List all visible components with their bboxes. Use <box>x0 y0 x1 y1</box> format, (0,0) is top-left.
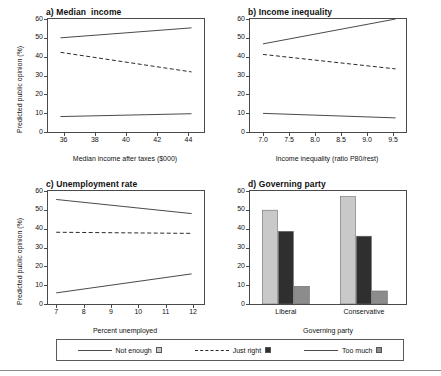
panel-d-title: d) Governing party <box>248 179 326 189</box>
panel-b-xlabel: Income inequality (ratio P80/rest) <box>227 155 427 162</box>
y-tick-label: 30 <box>23 243 43 250</box>
x-tick-label: 42 <box>143 136 171 143</box>
y-tick-label: 60 <box>225 15 245 22</box>
panel-c-xlabel: Percent unemployed <box>55 327 195 334</box>
y-tick-mark <box>246 248 249 249</box>
bar-liberal-not-enough <box>262 210 277 304</box>
x-tick-label: 9 <box>97 308 125 315</box>
x-tick-mark <box>166 305 167 308</box>
x-tick-mark <box>84 305 85 308</box>
x-tick-label: 8.0 <box>301 136 329 143</box>
y-tick-label: 0 <box>225 128 245 135</box>
y-tick-mark <box>246 285 249 286</box>
y-tick-mark <box>246 229 249 230</box>
x-tick-label: 9.5 <box>379 136 407 143</box>
y-tick-mark <box>246 210 249 211</box>
x-tick-label: 7.0 <box>249 136 277 143</box>
x-tick-mark <box>367 133 368 136</box>
legend-line-sample <box>304 350 338 351</box>
panel-a-xlabel: Median income after taxes ($000) <box>25 155 225 162</box>
y-tick-label: 10 <box>23 109 43 116</box>
legend-row: Not enoughJust rightToo much <box>57 340 403 360</box>
figure-container: a) Median income Predicted public opinio… <box>0 0 441 376</box>
legend-item-not-enough[interactable]: Not enough <box>78 347 162 354</box>
legend: Not enoughJust rightToo much <box>56 339 404 361</box>
x-tick-label: 7 <box>42 308 70 315</box>
bar-liberal-just-right <box>278 231 293 304</box>
x-tick-label: 40 <box>112 136 140 143</box>
y-tick-label: 20 <box>23 262 43 269</box>
x-tick-label: 11 <box>152 308 180 315</box>
y-tick-label: 30 <box>23 71 43 78</box>
y-tick-mark <box>44 94 47 95</box>
x-tick-label: 38 <box>81 136 109 143</box>
x-tick-mark <box>193 305 194 308</box>
legend-item-just-right[interactable]: Just right <box>195 347 271 354</box>
x-tick-mark <box>289 133 290 136</box>
legend-line-sample <box>195 350 229 351</box>
legend-item-too-much[interactable]: Too much <box>304 347 382 354</box>
x-tick-mark <box>188 133 189 136</box>
x-tick-label: 10 <box>124 308 152 315</box>
y-tick-mark <box>44 38 47 39</box>
panel-a-title: a) Median income <box>46 7 121 17</box>
y-tick-mark <box>246 132 249 133</box>
x-tick-mark <box>157 133 158 136</box>
y-tick-mark <box>44 76 47 77</box>
y-tick-label: 10 <box>225 109 245 116</box>
x-category-label: Liberal <box>256 308 316 315</box>
x-tick-mark <box>111 305 112 308</box>
series-line-just-right <box>263 54 396 69</box>
x-tick-mark <box>95 133 96 136</box>
y-tick-mark <box>44 229 47 230</box>
x-tick-label: 8 <box>70 308 98 315</box>
x-tick-mark <box>56 305 57 308</box>
legend-label: Not enough <box>116 347 152 354</box>
y-tick-label: 40 <box>225 224 245 231</box>
x-tick-mark <box>341 133 342 136</box>
x-tick-label: 12 <box>179 308 207 315</box>
x-tick-label: 9.0 <box>353 136 381 143</box>
footer-divider <box>0 370 441 371</box>
bar-conservative-not-enough <box>340 197 355 304</box>
panel-c-title: c) Unemployment rate <box>46 179 137 189</box>
panel-d-plot-area <box>249 190 407 305</box>
y-tick-label: 40 <box>225 52 245 59</box>
y-tick-label: 50 <box>23 33 43 40</box>
series-line-too-much <box>56 274 191 293</box>
series-line-not-enough <box>60 28 191 38</box>
series-line-too-much <box>60 114 191 117</box>
series-line-just-right <box>60 52 191 72</box>
y-tick-mark <box>246 191 249 192</box>
x-tick-mark <box>393 133 394 136</box>
y-tick-mark <box>44 285 47 286</box>
series-line-just-right <box>56 232 191 233</box>
panel-c-ylabel: Predicted public opinion (%) <box>16 218 23 305</box>
y-tick-label: 0 <box>23 300 43 307</box>
x-tick-mark <box>138 305 139 308</box>
y-tick-mark <box>44 210 47 211</box>
legend-swatch <box>156 347 162 353</box>
y-tick-mark <box>246 304 249 305</box>
x-tick-mark <box>315 133 316 136</box>
panel-c-plot-area <box>47 190 205 305</box>
legend-label: Just right <box>233 347 261 354</box>
bar-liberal-too-much <box>294 286 309 304</box>
bar-conservative-just-right <box>356 236 371 304</box>
x-tick-mark <box>64 133 65 136</box>
y-tick-mark <box>44 248 47 249</box>
legend-line-sample <box>78 350 112 351</box>
x-category-label: Conservative <box>334 308 394 315</box>
y-tick-label: 30 <box>225 243 245 250</box>
x-tick-mark <box>126 133 127 136</box>
y-tick-label: 50 <box>23 205 43 212</box>
y-tick-mark <box>246 19 249 20</box>
y-tick-label: 60 <box>23 15 43 22</box>
y-tick-label: 40 <box>23 52 43 59</box>
x-tick-label: 8.5 <box>327 136 355 143</box>
x-tick-label: 44 <box>174 136 202 143</box>
x-tick-label: 36 <box>50 136 78 143</box>
x-tick-mark <box>263 133 264 136</box>
panel-b-plot-area <box>249 18 407 133</box>
y-tick-label: 60 <box>225 187 245 194</box>
